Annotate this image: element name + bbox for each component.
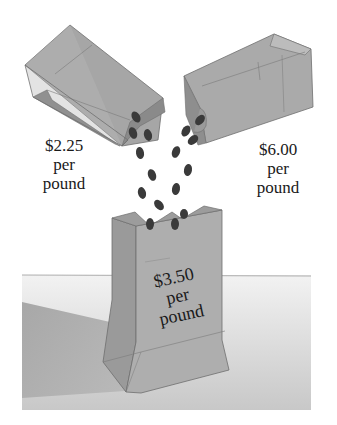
right-bag-unit-per: per bbox=[242, 159, 314, 178]
left-bag-price-label: $2.25 per pound bbox=[28, 136, 100, 193]
left-bag-unit-pound: pound bbox=[28, 174, 100, 193]
illustration-canvas bbox=[0, 0, 337, 425]
right-bag-price: $6.00 bbox=[242, 140, 314, 159]
right-bag bbox=[184, 34, 313, 145]
right-bag-price-label: $6.00 per pound bbox=[242, 140, 314, 197]
left-bag-unit-per: per bbox=[28, 155, 100, 174]
left-bag-price: $2.25 bbox=[28, 136, 100, 155]
left-bag bbox=[25, 25, 165, 146]
right-bag-unit-pound: pound bbox=[242, 178, 314, 197]
